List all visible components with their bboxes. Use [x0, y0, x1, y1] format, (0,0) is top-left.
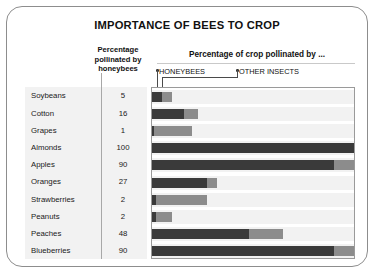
segment-honeybees [152, 229, 249, 239]
bar-grapes [152, 126, 354, 136]
row-value-peaches: 48 [103, 229, 143, 238]
row-label-cotton: Cotton [31, 109, 97, 118]
bars-container [152, 88, 354, 258]
bar-cotton [152, 109, 354, 119]
chart-card: IMPORTANCE OF BEES TO CROP Percentage po… [6, 6, 368, 267]
bar-almonds [152, 143, 354, 153]
row-label-oranges: Oranges [31, 177, 97, 186]
left-header-line2: pollinated by [85, 55, 151, 65]
legend-label-other-insects: OTHER INSECTS [239, 67, 299, 76]
right-column-header: Percentage of crop pollinated by ... [157, 50, 357, 59]
row-label-soybeans: Soybeans [31, 91, 97, 100]
row-value-soybeans: 5 [103, 91, 143, 100]
left-column-header: Percentage pollinated by honeybees [85, 45, 151, 74]
segment-other-insects [154, 126, 192, 136]
segment-other-insects [207, 178, 217, 188]
segment-honeybees [152, 143, 354, 153]
segment-other-insects [162, 92, 172, 102]
segment-honeybees [152, 178, 207, 188]
row-value-apples: 90 [103, 160, 143, 169]
bar-blueberries [152, 246, 354, 256]
left-header-line3: honeybees [85, 64, 151, 74]
segment-other-insects [334, 246, 354, 256]
row-value-cotton: 16 [103, 109, 143, 118]
page-title: IMPORTANCE OF BEES TO CROP [7, 19, 367, 31]
row-label-almonds: Almonds [31, 143, 97, 152]
segment-honeybees [152, 160, 334, 170]
chart-plot-area [151, 87, 355, 259]
row-label-peaches: Peaches [31, 229, 97, 238]
row-value-almonds: 100 [103, 143, 143, 152]
bar-oranges [152, 178, 354, 188]
table-column-divider [101, 73, 102, 259]
segment-other-insects [334, 160, 354, 170]
row-value-strawberries: 2 [103, 195, 143, 204]
segment-other-insects [156, 195, 207, 205]
segment-honeybees [152, 92, 162, 102]
segment-other-insects [184, 109, 198, 119]
bar-strawberries [152, 195, 354, 205]
segment-honeybees [152, 109, 184, 119]
row-label-grapes: Grapes [31, 126, 97, 135]
bar-apples [152, 160, 354, 170]
legend-label-honeybees: HONEYBEES [159, 67, 205, 76]
row-label-strawberries: Strawberries [31, 195, 97, 204]
row-value-blueberries: 90 [103, 246, 143, 255]
segment-honeybees [152, 246, 334, 256]
bar-soybeans [152, 92, 354, 102]
row-label-peanuts: Peanuts [31, 212, 97, 221]
row-label-blueberries: Blueberries [31, 246, 97, 255]
other-insects-leader-line-horizontal [162, 77, 238, 78]
bar-peaches [152, 229, 354, 239]
segment-other-insects [249, 229, 283, 239]
header-divider-rule [157, 63, 355, 64]
segment-other-insects [156, 212, 172, 222]
row-label-apples: Apples [31, 160, 97, 169]
left-header-line1: Percentage [85, 45, 151, 55]
row-value-peanuts: 2 [103, 212, 143, 221]
row-value-grapes: 1 [103, 126, 143, 135]
bar-peanuts [152, 212, 354, 222]
row-value-oranges: 27 [103, 177, 143, 186]
